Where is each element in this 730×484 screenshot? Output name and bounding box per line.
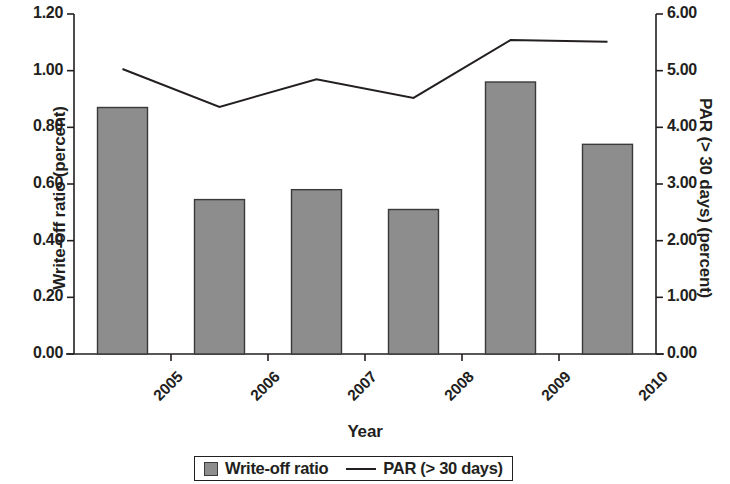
legend-item-par: PAR (> 30 days) — [346, 459, 502, 478]
legend-label-write-off-ratio: Write-off ratio — [225, 459, 328, 478]
bar — [389, 210, 439, 355]
legend-item-write-off-ratio: Write-off ratio — [204, 459, 328, 478]
bar — [486, 82, 536, 354]
legend-label-par: PAR (> 30 days) — [383, 459, 502, 478]
plot-area — [0, 0, 730, 484]
axes-group — [66, 14, 664, 361]
chart-legend: Write-off ratio PAR (> 30 days) — [194, 456, 513, 481]
bar-swatch-icon — [204, 462, 218, 476]
bar — [98, 108, 148, 355]
bar — [195, 200, 245, 354]
line-swatch-icon — [346, 468, 376, 470]
bar — [292, 190, 342, 354]
bars-group — [98, 82, 633, 354]
chart-figure: Write-off ratio (percent) PAR (> 30 days… — [0, 0, 730, 484]
bar — [583, 144, 633, 354]
